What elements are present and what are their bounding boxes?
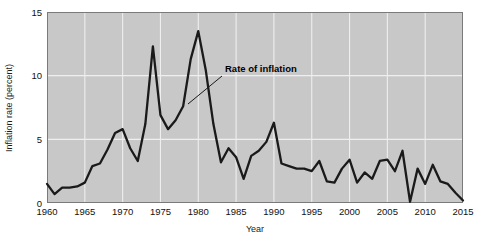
x-tick-label: 1980 <box>188 206 209 217</box>
inflation-rate-chart: 1960196519701975198019851990199520002005… <box>0 0 479 241</box>
y-tick-label: 0 <box>37 198 42 209</box>
x-tick-label: 2005 <box>377 206 398 217</box>
y-axis-title: Inflation rate (percent) <box>4 64 14 152</box>
x-tick-label: 1970 <box>112 206 133 217</box>
annotation-label-rate-of-inflation: Rate of inflation <box>225 63 297 74</box>
x-tick-label: 2000 <box>339 206 360 217</box>
x-tick-label: 1990 <box>263 206 284 217</box>
y-tick-label: 10 <box>31 70 42 81</box>
x-tick-label: 1995 <box>301 206 322 217</box>
x-tick-label: 1985 <box>226 206 247 217</box>
x-tick-label: 1975 <box>150 206 171 217</box>
x-tick-label: 1965 <box>74 206 95 217</box>
x-tick-label: 2010 <box>415 206 436 217</box>
x-axis-tick-labels: 1960196519701975198019851990199520002005… <box>36 206 473 217</box>
y-tick-label: 15 <box>31 7 42 18</box>
y-axis-tick-labels: 051015 <box>31 7 42 209</box>
y-tick-label: 5 <box>37 134 42 145</box>
x-axis-title: Year <box>246 224 264 234</box>
plot-area-background <box>47 12 463 203</box>
chart-canvas: 1960196519701975198019851990199520002005… <box>0 0 479 241</box>
x-tick-label: 2015 <box>452 206 473 217</box>
